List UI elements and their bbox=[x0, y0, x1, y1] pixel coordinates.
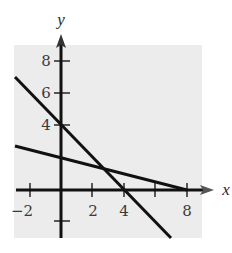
coordinate-plane: −2 2 4 8 8 6 4 y x bbox=[0, 0, 232, 253]
y-axis-label: y bbox=[55, 10, 65, 29]
x-tick-label-neg2: −2 bbox=[11, 202, 33, 220]
y-tick-label-8: 8 bbox=[41, 52, 51, 70]
plot-background bbox=[14, 45, 202, 238]
x-tick-label-4: 4 bbox=[119, 202, 129, 220]
y-tick-label-6: 6 bbox=[41, 84, 51, 102]
x-axis-label: x bbox=[221, 180, 230, 199]
x-tick-label-8: 8 bbox=[182, 202, 192, 220]
x-tick-label-2: 2 bbox=[88, 202, 98, 220]
y-tick-label-4: 4 bbox=[41, 116, 51, 134]
